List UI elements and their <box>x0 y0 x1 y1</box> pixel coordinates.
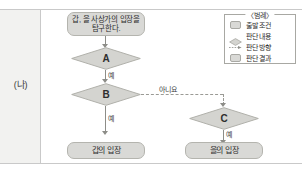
legend-item-decision-direction: 판단 방향 <box>229 42 292 52</box>
legend-label-start-condition: 출발 조건 <box>246 20 271 30</box>
legend-label-decision-direction: 판단 방향 <box>246 42 271 52</box>
dashed-arrow-icon <box>229 43 242 51</box>
decision-b-label: B <box>102 89 109 100</box>
rounded-box-icon <box>229 54 242 62</box>
diamond-icon <box>229 32 242 40</box>
left-label-column: (나) <box>0 10 41 163</box>
decision-b: B <box>71 83 141 106</box>
decision-c: C <box>189 107 259 130</box>
edge-label-b-no: 아니요 <box>159 84 176 94</box>
rounded-box-icon <box>229 21 242 29</box>
result-gap: 갑의 입장 <box>67 142 145 159</box>
decision-a: A <box>71 47 141 70</box>
result-eul: 을의 입장 <box>185 142 263 159</box>
decision-a-label: A <box>102 53 109 64</box>
connector-b-result <box>105 106 106 133</box>
legend-title: 〈범례〉 <box>245 10 274 20</box>
edge-label-a-yes: 예 <box>108 70 114 80</box>
bottom-divider <box>0 163 302 164</box>
edge-label-b-yes: 예 <box>108 113 114 123</box>
legend-box: 〈범례〉 출발 조건 판단 내용 <box>224 14 296 64</box>
start-node: 갑, 을 사상가의 입장을 탐구한다. <box>67 12 145 36</box>
legend-item-decision-content: 판단 내용 <box>229 31 292 41</box>
diagram-root: (나) 갑, 을 사상가의 입장을 탐구한다. A 예 B <box>0 0 302 171</box>
panel-label: (나) <box>0 78 41 91</box>
edge-label-c-yes: 예 <box>226 129 232 139</box>
legend-item-decision-result: 판단 결과 <box>229 53 292 63</box>
arrowhead-b-result <box>102 131 108 135</box>
decision-c-label: C <box>220 113 227 124</box>
legend-rows: 출발 조건 판단 내용 판단 방향 <box>229 20 292 63</box>
legend-item-start-condition: 출발 조건 <box>229 20 292 30</box>
legend-label-decision-result: 판단 결과 <box>246 53 271 63</box>
legend-label-decision-content: 판단 내용 <box>246 31 271 41</box>
connector-b-c-horizontal <box>141 94 223 95</box>
